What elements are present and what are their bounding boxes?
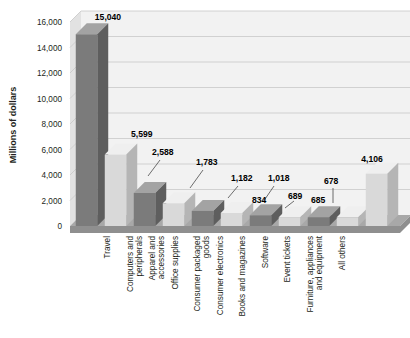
y-tick-label: 12,000 bbox=[37, 69, 62, 78]
y-axis-title: Millions of dollars bbox=[8, 87, 18, 164]
y-tick-label: 2,000 bbox=[42, 197, 63, 206]
bar-column bbox=[105, 144, 137, 226]
bar-front-face bbox=[337, 217, 358, 226]
bar-side-face bbox=[387, 163, 398, 226]
bar-front-face bbox=[221, 213, 242, 226]
category-label: Office supplies bbox=[171, 236, 180, 290]
bar-value-label: 15,040 bbox=[95, 12, 122, 22]
bar-value-label: 1,182 bbox=[231, 173, 253, 183]
bar-front-face bbox=[366, 174, 387, 226]
bar-value-label: 1,783 bbox=[196, 157, 218, 167]
category-label: Apparel and bbox=[148, 236, 157, 281]
bar-value-label: 689 bbox=[288, 191, 303, 201]
bar-front-face bbox=[192, 211, 213, 226]
bar-value-label: 2,588 bbox=[152, 147, 174, 157]
bar-front-face bbox=[279, 217, 300, 226]
bar-front-face bbox=[250, 215, 271, 226]
category-label: All others bbox=[338, 236, 347, 270]
bar-value-label: 834 bbox=[252, 195, 267, 205]
category-label: Travel bbox=[103, 236, 112, 259]
y-tick-label: 0 bbox=[57, 222, 62, 231]
bar-column bbox=[134, 182, 166, 226]
bar-value-label: 678 bbox=[324, 176, 339, 186]
category-label: Event tickets bbox=[283, 236, 292, 282]
category-label: Consumer packaged bbox=[193, 236, 202, 312]
y-tick-label: 4,000 bbox=[42, 171, 63, 180]
category-label: peripherals bbox=[135, 236, 144, 277]
floor-front-lip bbox=[70, 226, 400, 233]
bar-column bbox=[366, 163, 398, 226]
y-tick-label: 6,000 bbox=[42, 146, 63, 155]
bar-value-label: 5,599 bbox=[131, 129, 153, 139]
chart-canvas: 02,0004,0006,0008,00010,00012,00014,0001… bbox=[0, 0, 410, 338]
y-tick-label: 8,000 bbox=[42, 120, 63, 129]
bar-value-label: 685 bbox=[311, 195, 326, 205]
category-label: Software bbox=[261, 236, 270, 269]
category-label: Consumer electronics bbox=[216, 236, 225, 315]
bar-column bbox=[76, 23, 108, 226]
category-label: Computers and bbox=[126, 236, 135, 292]
y-tick-label: 14,000 bbox=[37, 44, 62, 53]
y-tick-label: 10,000 bbox=[37, 95, 62, 104]
category-label: Furniture, appliances bbox=[306, 236, 315, 312]
bar-front-face bbox=[163, 203, 184, 226]
bar-chart: 02,0004,0006,0008,00010,00012,00014,0001… bbox=[0, 0, 410, 338]
bar-front-face bbox=[105, 155, 126, 226]
category-label: goods bbox=[202, 236, 211, 258]
bar-front-face bbox=[134, 193, 155, 226]
bar-front-face bbox=[308, 217, 329, 226]
bar-front-face bbox=[76, 34, 97, 226]
y-tick-label: 16,000 bbox=[37, 18, 62, 27]
category-label: accessories bbox=[157, 236, 166, 279]
bar-value-label: 4,106 bbox=[361, 154, 383, 164]
y-axis-ticks: 02,0004,0006,0008,00010,00012,00014,0001… bbox=[37, 18, 62, 231]
bar-value-label: 1,018 bbox=[268, 173, 290, 183]
category-label: Books and magazines bbox=[238, 236, 247, 317]
category-label: and equipment bbox=[315, 235, 324, 290]
